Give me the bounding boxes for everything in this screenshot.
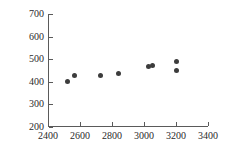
- y-tick-mark: [49, 104, 53, 105]
- scatter-point: [116, 71, 121, 76]
- x-tick-mark: [176, 122, 177, 126]
- y-tick-label: 400: [29, 77, 44, 87]
- y-tick-mark: [49, 14, 53, 15]
- x-tick-label: 2400: [38, 131, 58, 141]
- x-tick-label: 3200: [166, 131, 186, 141]
- x-tick-label: 2800: [102, 131, 122, 141]
- scatter-point: [98, 73, 103, 78]
- y-tick-mark: [49, 37, 53, 38]
- y-axis-line: [48, 14, 49, 127]
- scatter-point: [72, 73, 77, 78]
- x-tick-label: 3000: [134, 131, 154, 141]
- x-tick-mark: [208, 122, 209, 126]
- scatter-point: [174, 59, 179, 64]
- y-tick-label: 700: [29, 9, 44, 19]
- y-tick-label: 500: [29, 54, 44, 64]
- scatter-point: [174, 68, 179, 73]
- y-tick-mark: [49, 127, 53, 128]
- y-tick-mark: [49, 82, 53, 83]
- scatter-point: [150, 63, 155, 68]
- scatter-chart-figure: 200300400500600700 240026002800300032003…: [0, 0, 231, 154]
- x-tick-mark: [112, 122, 113, 126]
- x-tick-mark: [80, 122, 81, 126]
- x-tick-mark: [144, 122, 145, 126]
- x-tick-label: 3400: [198, 131, 218, 141]
- y-tick-label: 300: [29, 99, 44, 109]
- scatter-point: [65, 79, 70, 84]
- y-tick-mark: [49, 59, 53, 60]
- y-tick-label: 600: [29, 32, 44, 42]
- x-tick-label: 2600: [70, 131, 90, 141]
- plot-area: 200300400500600700 240026002800300032003…: [48, 14, 208, 127]
- x-axis-line: [48, 126, 208, 127]
